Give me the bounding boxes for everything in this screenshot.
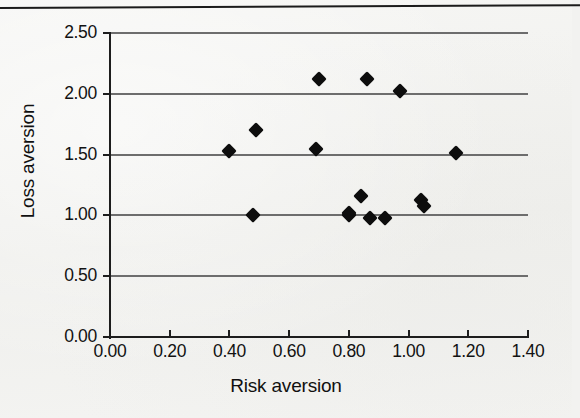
data-point bbox=[249, 122, 265, 138]
y-tick-label-1.00: 1.00 bbox=[33, 204, 97, 225]
data-point bbox=[222, 143, 238, 159]
y-tick-label-0.50: 0.50 bbox=[33, 265, 97, 286]
x-axis-title: Risk aversion bbox=[0, 375, 572, 397]
data-point bbox=[353, 188, 369, 204]
data-point bbox=[377, 210, 393, 226]
y-axis-title: Loss aversion bbox=[17, 51, 39, 271]
y-tick-label-2.50: 2.50 bbox=[33, 22, 97, 43]
x-tick-label-1.40: 1.40 bbox=[493, 341, 563, 362]
data-point bbox=[311, 71, 327, 87]
y-tick-label-2.00: 2.00 bbox=[33, 83, 97, 104]
data-points bbox=[110, 33, 528, 337]
data-point bbox=[246, 208, 262, 224]
data-point bbox=[308, 141, 324, 157]
y-tick-label-1.50: 1.50 bbox=[33, 144, 97, 165]
data-point bbox=[362, 210, 378, 226]
data-point bbox=[341, 205, 357, 221]
data-point bbox=[449, 146, 465, 162]
data-point bbox=[392, 84, 408, 100]
data-point bbox=[359, 71, 375, 87]
